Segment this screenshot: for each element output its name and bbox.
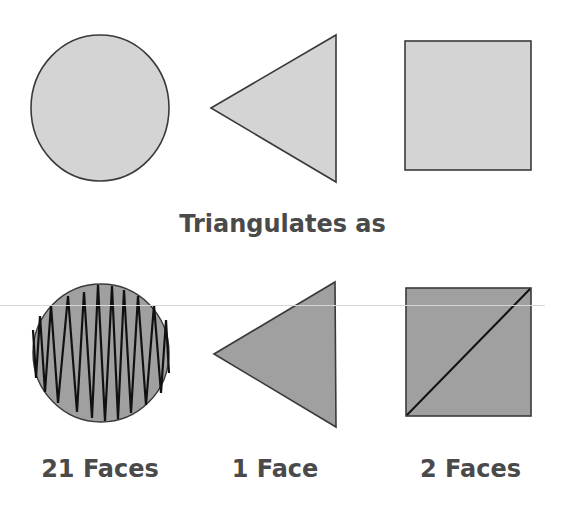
square-shape <box>405 41 531 170</box>
caption-triangle: 1 Face <box>205 455 345 483</box>
caption-square: 2 Faces <box>398 455 543 483</box>
circle-shape <box>31 35 169 181</box>
triangulated-square <box>406 288 531 416</box>
divider-line <box>0 305 545 306</box>
triangle-shape <box>211 35 336 182</box>
diagram-canvas <box>0 0 565 506</box>
diagram-title: Triangulates as <box>0 210 565 238</box>
triangulated-triangle <box>214 282 336 427</box>
caption-circle: 21 Faces <box>30 455 170 483</box>
